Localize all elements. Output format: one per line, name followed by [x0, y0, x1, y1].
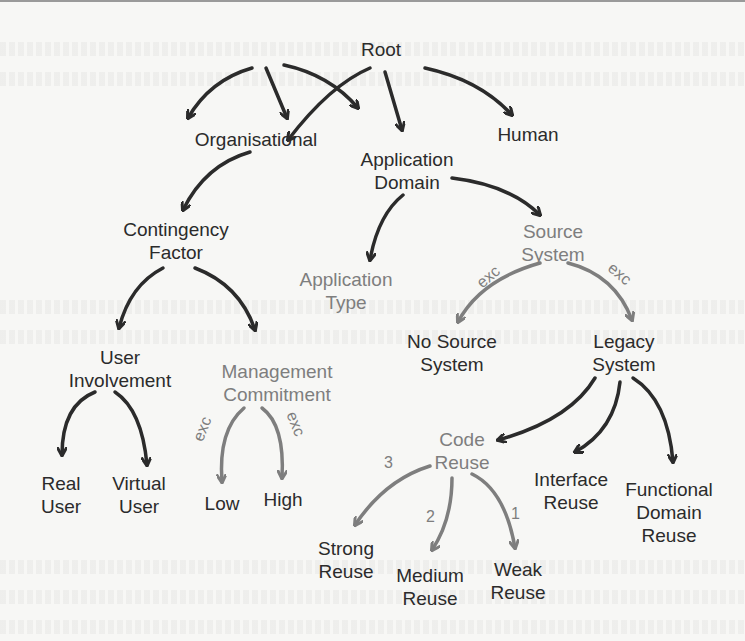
- node-low: Low: [205, 492, 240, 515]
- edge-contingency-mgmt: [195, 268, 255, 330]
- edge-label-weight: 2: [426, 508, 435, 526]
- edge-legacy-interface: [575, 382, 620, 452]
- node-strong-reuse: StrongReuse: [318, 537, 374, 583]
- edge-code-medium: [432, 478, 452, 550]
- node-no-source-system: No SourceSystem: [407, 330, 497, 376]
- node-contingency-factor: ContingencyFactor: [123, 218, 229, 264]
- node-source-system: SourceSystem: [521, 220, 584, 266]
- node-weak-reuse: WeakReuse: [491, 558, 546, 604]
- node-code-reuse: CodeReuse: [435, 428, 490, 474]
- node-interface-reuse: InterfaceReuse: [534, 468, 608, 514]
- edge-code-weak: [472, 474, 515, 548]
- node-legacy-system: LegacySystem: [592, 330, 655, 376]
- node-functional-domain-reuse: FunctionalDomainReuse: [625, 478, 713, 547]
- edge-root-organisational: [188, 68, 252, 118]
- edge-root-human: [425, 68, 512, 115]
- edge-mgmt-high: [262, 408, 282, 478]
- edge-legacy-code: [498, 378, 595, 440]
- edge-root-application-domain: [385, 72, 402, 130]
- edge-mgmt-low: [221, 408, 244, 482]
- edge-label-weight: 3: [384, 454, 393, 472]
- edge-legacy-functional: [633, 378, 673, 462]
- node-application-domain: ApplicationDomain: [361, 148, 454, 194]
- node-application-type: ApplicationType: [300, 268, 393, 314]
- edge-root-appdomain: [266, 68, 287, 118]
- edge-code-strong: [355, 466, 430, 525]
- node-high: High: [263, 488, 302, 511]
- node-virtual-user: VirtualUser: [112, 472, 166, 518]
- node-human: Human: [497, 123, 558, 146]
- edge-appdomain-apptype: [370, 195, 403, 260]
- edge-contingency-user: [119, 268, 163, 328]
- node-management-commitment: ManagementCommitment: [222, 360, 333, 406]
- edge-organisational-contingency: [183, 152, 250, 210]
- node-user-involvement: UserInvolvement: [69, 346, 171, 392]
- edge-user-virtual: [115, 392, 147, 465]
- node-real-user: RealUser: [41, 472, 81, 518]
- edge-appdomain-source: [452, 178, 540, 215]
- edge-user-real: [62, 392, 95, 455]
- edge-label-weight: 1: [511, 505, 520, 523]
- node-organisational: Organisational: [195, 128, 318, 151]
- node-medium-reuse: MediumReuse: [396, 564, 464, 610]
- node-root: Root: [361, 38, 401, 61]
